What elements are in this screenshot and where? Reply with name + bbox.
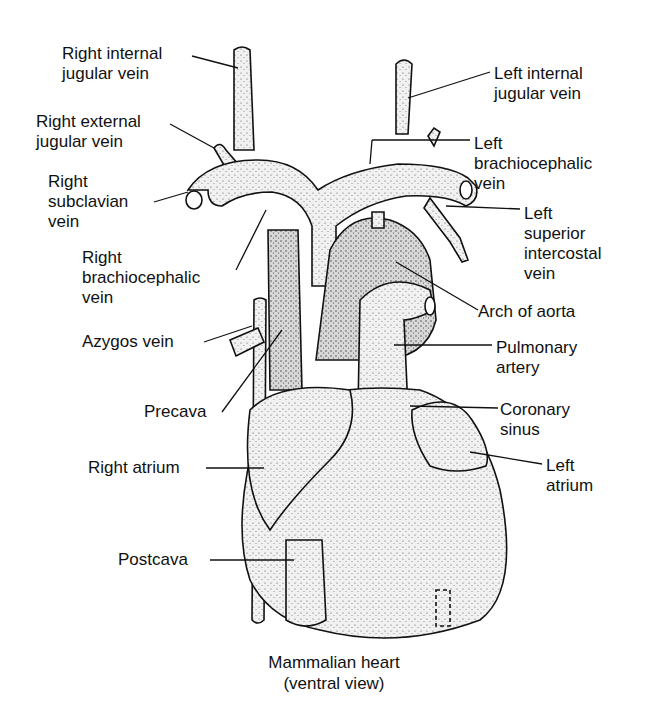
label-pulmonary-artery: Pulmonary artery — [496, 338, 577, 378]
label-arch-of-aorta: Arch of aorta — [478, 302, 575, 322]
caption-title: Mammalian heart — [0, 652, 668, 673]
postcava-vessel — [286, 540, 326, 626]
heart-drawing — [186, 47, 507, 638]
label-right-atrium: Right atrium — [88, 458, 180, 478]
precava-vessel — [268, 230, 302, 390]
label-right-internal-jugular-vein: Right internal jugular vein — [62, 44, 162, 84]
label-left-superior-intercostal-vein: Left superior intercostal vein — [524, 204, 601, 284]
label-left-atrium: Left atrium — [546, 456, 593, 496]
label-right-external-jugular-vein: Right external jugular vein — [36, 112, 141, 152]
label-left-internal-jugular-vein: Left internal jugular vein — [494, 64, 583, 104]
label-left-brachiocephalic-vein: Left brachiocephalic vein — [474, 134, 592, 194]
label-precava: Precava — [144, 402, 206, 422]
label-right-subclavian-vein: Right subclavian vein — [48, 172, 128, 232]
figure-caption: Mammalian heart (ventral view) — [0, 652, 668, 694]
right-internal-jugular-vessel — [234, 47, 254, 150]
label-coronary-sinus: Coronary sinus — [500, 400, 570, 440]
label-azygos-vein: Azygos vein — [82, 332, 174, 352]
label-right-brachiocephalic-vein: Right brachiocephalic vein — [82, 248, 200, 308]
caption-subtitle: (ventral view) — [0, 673, 668, 694]
label-postcava: Postcava — [118, 550, 188, 570]
